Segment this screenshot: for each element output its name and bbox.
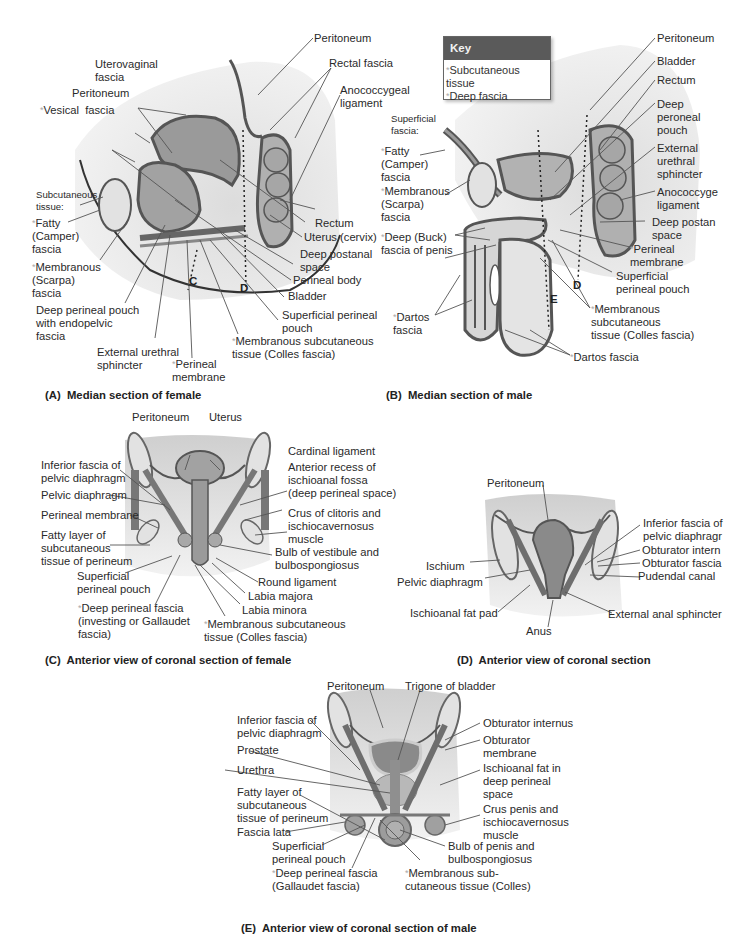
- label-urethra: Urethra: [237, 764, 274, 777]
- coronal-section-art: [470, 485, 640, 627]
- label-fascia-lata: Fascia lata: [237, 826, 291, 839]
- label-pudendal-canal: Pudendal canal: [638, 570, 715, 583]
- label-membranous-subcutaneous: *Membranous subcutaneous tissue (Colles …: [591, 303, 694, 342]
- label-deep-perineal-fascia: *Deep perineal fascia (Gallaudet fascia): [272, 867, 378, 893]
- label-ischium: Ischium: [426, 560, 465, 573]
- label-uterovaginal-fascia: Uterovaginal fascia: [95, 58, 158, 84]
- label-crus-penis: Crus penis and ischiocavernosus muscle: [483, 803, 569, 842]
- key-item-deep-fascia: *Deep fascia: [444, 90, 550, 103]
- key-legend: Key *Subcutaneous tissue *Deep fascia: [443, 36, 551, 100]
- label-superficial-perineal-pouch: Superficial perineal pouch: [282, 309, 377, 335]
- label-fatty-camper: *Fatty (Camper) fascia: [381, 145, 428, 184]
- caption-c: (C) Anterior view of coronal section of …: [45, 654, 291, 666]
- label-obturator-internus: Obturator internus: [483, 717, 573, 730]
- label-external-urethral-sphincter: External urethral sphincter: [97, 346, 179, 372]
- label-perineal-body: Perineal body: [293, 274, 361, 287]
- key-title: Key: [444, 37, 550, 60]
- label-peritoneum: Peritoneum: [72, 87, 129, 100]
- label-deep-postanal-space: Deep postanal space: [300, 248, 372, 274]
- label-rectum: Rectum: [315, 217, 354, 230]
- label-vesical-fascia: *Vesical fascia: [40, 104, 114, 117]
- label-bladder: Bladder: [657, 55, 696, 68]
- label-peritoneum: Peritoneum: [487, 477, 544, 490]
- label-inferior-fascia: Inferior fascia of pelvic diaphragm: [237, 714, 322, 740]
- label-anococcygeal-ligament: Anococcygeal ligament: [340, 84, 410, 110]
- label-perineal-membrane: Perineal membrane: [41, 509, 139, 522]
- label-deep-buck-fascia: *Deep (Buck) fascia of penis: [381, 231, 453, 257]
- label-superficial-perineal-pouch: Superficial perineal pouch: [272, 840, 345, 866]
- label-bulb-of-vestibule: Bulb of vestibule and bulbospongiosus: [275, 546, 379, 572]
- label-pelvic-diaphragm: Pelvic diaphragm: [41, 489, 127, 502]
- label-membranous-scarpa: *Membranous (Scarpa) fascia: [32, 261, 101, 300]
- label-superficial-perineal-pouch: Superficial perineal pouch: [77, 570, 150, 596]
- label-bladder: Bladder: [288, 290, 327, 303]
- label-fatty-layer: Fatty layer of subcutaneous tissue of pe…: [237, 786, 328, 825]
- label-anterior-recess: Anterior recess of ischioanal fossa (dee…: [288, 461, 396, 500]
- label-anus: Anus: [526, 625, 552, 638]
- label-rectum: Rectum: [657, 74, 696, 87]
- label-perineal-membrane: *Perineal membrane: [630, 243, 683, 269]
- plane-marker-c: C: [189, 275, 197, 287]
- label-membranous-subcutaneous: *Membranous subcutaneous tissue (Colles …: [232, 335, 374, 361]
- label-fatty-camper: *Fatty (Camper) fascia: [32, 217, 79, 256]
- label-trigone-of-bladder: Trigone of bladder: [405, 680, 495, 693]
- label-deep-postanal-space: Deep postan space: [652, 216, 715, 242]
- label-perineal-membrane: *Perineal membrane: [172, 358, 225, 384]
- label-inferior-fascia: Inferior fascia of pelvic diaphragm: [41, 459, 126, 485]
- caption-e: (E) Anterior view of coronal section of …: [241, 922, 477, 934]
- label-dartos-fascia-bottom: *Dartos fascia: [570, 351, 639, 364]
- plane-marker-d: D: [573, 279, 581, 291]
- label-inferior-fascia: Inferior fascia of pelvic diaphragr: [643, 517, 723, 543]
- caption-d: (D) Anterior view of coronal section: [457, 654, 651, 666]
- label-bulb-of-penis: Bulb of penis and bulbospongiosus: [448, 840, 534, 866]
- label-uterus: Uterus: [209, 411, 242, 424]
- label-pelvic-diaphragm: Pelvic diaphragm: [397, 576, 483, 589]
- label-peritoneum: Peritoneum: [327, 680, 384, 693]
- label-round-ligament: Round ligament: [258, 576, 336, 589]
- plane-marker-d: D: [240, 282, 248, 294]
- label-membranous-subcutaneous: *Membranous subcutaneous tissue (Colles …: [204, 618, 346, 644]
- label-membranous-subcutaneous: *Membranous sub- cutaneous tissue (Colle…: [405, 867, 531, 893]
- label-superficial-perineal-pouch: Superficial perineal pouch: [616, 270, 689, 296]
- label-uterus-cervix: Uterus (cervix): [304, 231, 377, 244]
- label-labia-majora: Labia majora: [248, 590, 313, 603]
- caption-b: (B) Median section of male: [386, 389, 532, 401]
- label-superficial-fascia: Superficial fascia:: [391, 113, 436, 136]
- label-crus-of-clitoris: Crus of clitoris and ischiocavernosus mu…: [288, 507, 381, 546]
- label-fatty-layer: Fatty layer of subcutaneous tissue of pe…: [41, 529, 132, 568]
- label-peritoneum-top: Peritoneum: [314, 32, 371, 45]
- label-membranous-scarpa: *Membranous (Scarpa) fascia: [381, 185, 450, 224]
- label-ischioanal-fat-pad: Ischioanal fat pad: [410, 607, 498, 620]
- label-prostate: Prostate: [237, 744, 279, 757]
- label-external-anal-sphincter: External anal sphincter: [608, 608, 722, 621]
- label-external-urethral-sphincter: External urethral sphincter: [657, 142, 702, 181]
- label-anococcygeal-ligament: Anococcyge ligament: [657, 186, 718, 212]
- caption-a: (A) Median section of female: [45, 389, 201, 401]
- label-ischioanal-fat: Ischioanal fat in deep perineal space: [483, 762, 561, 801]
- label-obturator-fascia: Obturator fascia: [642, 557, 722, 570]
- label-peritoneum: Peritoneum: [132, 411, 189, 424]
- label-labia-minora: Labia minora: [242, 604, 307, 617]
- label-obturator-membrane: Obturator membrane: [483, 734, 536, 760]
- label-deep-perineal-pouch: Deep perineal pouch with endopelvic fasc…: [36, 304, 139, 343]
- label-deep-peroneal-pouch: Deep peroneal pouch: [657, 98, 701, 137]
- label-cardinal-ligament: Cardinal ligament: [288, 445, 375, 458]
- label-dartos-fascia-left: *Dartos fascia: [393, 311, 429, 337]
- label-subcutaneous-tissue: Subcutaneous tissue:: [36, 189, 97, 212]
- label-deep-perineal-fascia: *Deep perineal fascia (investing or Gall…: [78, 602, 190, 641]
- label-peritoneum: Peritoneum: [657, 32, 714, 45]
- label-rectal-fascia: Rectal fascia: [329, 57, 393, 70]
- key-item-subcutaneous: *Subcutaneous tissue: [444, 64, 550, 90]
- plane-marker-e: E: [550, 293, 558, 305]
- label-obturator-internus: Obturator intern: [642, 544, 720, 557]
